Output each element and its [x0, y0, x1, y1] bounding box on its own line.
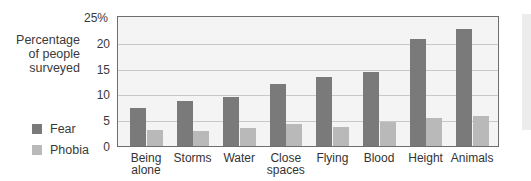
bar-fear — [316, 77, 332, 146]
legend-label: Fear — [50, 122, 76, 136]
gridline — [118, 70, 498, 71]
x-category-label: Animals — [442, 152, 502, 164]
y-tick-label: 10 — [80, 89, 110, 101]
y-tick-label: 5 — [80, 115, 110, 127]
y-tick-label: 15 — [80, 64, 110, 76]
bar-phobia — [286, 124, 302, 146]
bar-phobia — [473, 116, 489, 146]
bar-fear — [363, 72, 379, 146]
bar-phobia — [193, 131, 209, 146]
y-axis-label-line: of people — [6, 47, 80, 61]
phobia-swatch-icon — [32, 145, 42, 155]
bar-phobia — [240, 128, 256, 146]
bar-phobia — [147, 130, 163, 146]
y-axis-label: Percentage of people surveyed — [6, 33, 80, 75]
bar-fear — [177, 101, 193, 146]
y-tick-label: 0 — [80, 141, 110, 153]
bar-phobia — [380, 122, 396, 146]
bar-fear — [456, 29, 472, 146]
y-tick-label: 20 — [80, 38, 110, 50]
bar-phobia — [426, 118, 442, 146]
y-axis-label-line: surveyed — [6, 61, 80, 75]
plot-area — [117, 16, 499, 147]
gridline — [118, 44, 498, 45]
bar-fear — [223, 97, 239, 146]
bar-fear — [410, 39, 426, 146]
y-axis-label-line: Percentage — [6, 33, 80, 47]
bar-fear — [270, 84, 286, 146]
side-panel — [522, 14, 531, 130]
y-tick-label: 25% — [78, 12, 108, 24]
bar-fear — [130, 108, 146, 146]
gridline — [118, 95, 498, 96]
fear-swatch-icon — [32, 124, 42, 134]
bar-phobia — [333, 127, 349, 146]
